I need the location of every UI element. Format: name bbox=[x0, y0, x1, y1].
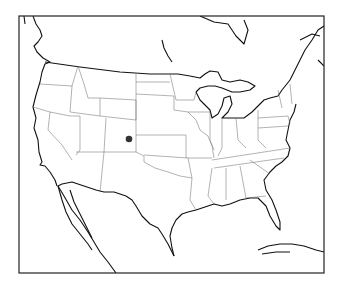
us-map bbox=[0, 0, 341, 292]
location-marker-colorado[interactable] bbox=[126, 136, 133, 143]
canada-islands bbox=[162, 16, 324, 66]
cuba bbox=[258, 244, 324, 254]
coastline-west bbox=[24, 16, 57, 186]
map-frame bbox=[19, 16, 324, 273]
baja-california bbox=[58, 186, 92, 250]
border-north bbox=[45, 62, 255, 92]
